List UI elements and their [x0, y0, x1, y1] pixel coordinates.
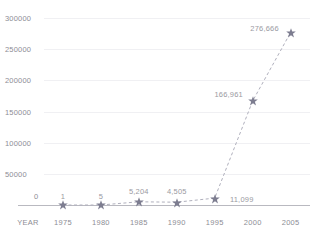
- data-point-label: 5: [99, 192, 103, 201]
- data-point-label: 4,505: [167, 187, 187, 196]
- data-point-label: 11,099: [230, 195, 254, 204]
- data-point-label: 5,204: [129, 187, 149, 196]
- data-point-label: 166,961: [214, 90, 243, 99]
- chart-container: 050000100000150000200000250000300000 155…: [0, 0, 314, 238]
- x-axis-tick-label: 2000: [244, 218, 262, 227]
- x-axis-tick-label: 1995: [206, 218, 224, 227]
- x-axis-tick-label: 2005: [282, 218, 300, 227]
- data-point-label: 1: [61, 192, 65, 201]
- x-axis-title: YEAR: [17, 218, 39, 227]
- x-axis-tick-label: 1990: [168, 218, 186, 227]
- series-line: [0, 0, 314, 238]
- x-axis-tick-label: 1975: [54, 218, 72, 227]
- data-point-label: 276,666: [250, 24, 279, 33]
- x-axis-tick-label: 1985: [130, 218, 148, 227]
- x-axis-tick-label: 1980: [92, 218, 110, 227]
